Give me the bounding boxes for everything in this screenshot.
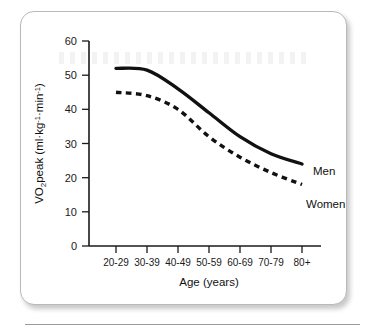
x-axis-ticks [116, 246, 302, 253]
y-tick-label: 50 [65, 69, 77, 81]
y-axis-ticks [82, 41, 89, 246]
x-tick-label: 70-79 [258, 257, 284, 268]
x-tick-label: 40-49 [165, 257, 191, 268]
y-axis-tick-labels: 60 50 40 30 20 10 0 [65, 35, 77, 252]
bottom-divider-rule [25, 324, 360, 325]
figure-panel: 60 50 40 30 20 10 0 VO2peak (ml·kg-1·min… [20, 11, 347, 305]
series-line-women [116, 92, 302, 184]
series-line-men [116, 68, 302, 164]
series-label-women: Women [306, 198, 345, 210]
y-tick-label: 40 [65, 103, 77, 115]
vo2peak-line-chart: 60 50 40 30 20 10 0 VO2peak (ml·kg-1·min… [21, 12, 348, 306]
x-tick-label: 20-29 [103, 257, 129, 268]
series-label-men: Men [313, 165, 335, 177]
y-tick-label: 20 [65, 172, 77, 184]
x-tick-label: 80+ [294, 257, 311, 268]
x-axis-title: Age (years) [179, 276, 239, 288]
x-tick-label: 30-39 [134, 257, 160, 268]
x-tick-label: 50-59 [196, 257, 222, 268]
y-tick-label: 0 [71, 240, 77, 252]
x-axis-tick-labels: 20-29 30-39 40-49 50-59 60-69 70-79 80+ [103, 257, 310, 268]
y-tick-label: 60 [65, 35, 77, 47]
y-tick-label: 30 [65, 138, 77, 150]
y-axis-title: VO2peak (ml·kg-1·min-1) [33, 83, 48, 204]
y-tick-label: 10 [65, 206, 77, 218]
x-tick-label: 60-69 [227, 257, 253, 268]
